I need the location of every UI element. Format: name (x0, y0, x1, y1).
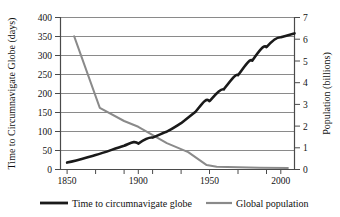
right-tick-label-7: 7 (303, 13, 308, 23)
bottom-tick-label-1950: 1950 (200, 176, 219, 186)
left-tick-label-50: 50 (43, 146, 53, 156)
left-tick-label-300: 300 (38, 51, 53, 61)
left-tick-label-100: 100 (38, 127, 53, 137)
left-axis-title: Time to Circumnavigate Globe (days) (6, 18, 18, 170)
left-tick-label-400: 400 (38, 13, 53, 23)
right-tick-label-5: 5 (303, 57, 308, 67)
right-tick-label-6: 6 (303, 35, 308, 45)
chart-page: 400 350 300 250 200 150 100 50 0 7 6 5 4… (0, 0, 340, 217)
left-tick-label-0: 0 (47, 165, 52, 175)
bottom-tick-label-1850: 1850 (58, 176, 77, 186)
left-tick-label-350: 350 (38, 32, 53, 42)
legend-label-time-to-circumnavigate: Time to circumnavigate globe (72, 198, 192, 209)
right-tick-label-1: 1 (303, 143, 308, 153)
right-tick-label-3: 3 (303, 100, 308, 110)
legend-label-global-population: Global population (236, 198, 309, 209)
right-tick-label-2: 2 (303, 122, 308, 132)
left-tick-label-200: 200 (38, 89, 53, 99)
left-tick-label-150: 150 (38, 108, 53, 118)
left-tick-label-250: 250 (38, 70, 53, 80)
bottom-tick-label-1900: 1900 (129, 176, 148, 186)
dual-axis-line-chart: 400 350 300 250 200 150 100 50 0 7 6 5 4… (0, 0, 340, 217)
bottom-tick-label-2000: 2000 (271, 176, 290, 186)
right-tick-label-0: 0 (303, 165, 308, 175)
right-tick-label-4: 4 (303, 78, 308, 88)
chart-legend: Time to circumnavigate globe Global popu… (40, 198, 309, 209)
right-axis-title: Population (billions) (321, 52, 333, 135)
